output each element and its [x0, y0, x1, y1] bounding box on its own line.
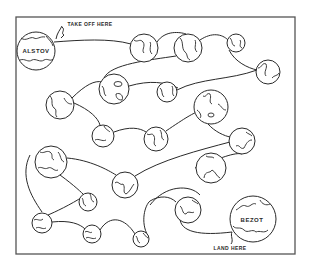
- planet[interactable]: [83, 225, 101, 243]
- path-segment[interactable]: [208, 124, 230, 137]
- path-segment[interactable]: [200, 35, 228, 40]
- path-segment[interactable]: [166, 112, 198, 131]
- planet-label-alstov: ALSTOV: [22, 48, 49, 54]
- planet[interactable]: [99, 74, 129, 104]
- path-segment[interactable]: [60, 175, 84, 195]
- planet[interactable]: [46, 91, 74, 119]
- path-segment[interactable]: [229, 50, 257, 70]
- planets: ALSTOV: [17, 32, 280, 247]
- path-segment[interactable]: [144, 201, 150, 236]
- planet[interactable]: [79, 193, 97, 211]
- planet[interactable]: [175, 197, 201, 223]
- path-segment[interactable]: [177, 70, 257, 90]
- path-segment[interactable]: [56, 26, 62, 39]
- planet[interactable]: [194, 90, 228, 124]
- planet[interactable]: [227, 34, 245, 52]
- planet[interactable]: [35, 146, 67, 178]
- path-segment[interactable]: [54, 40, 131, 44]
- path-segment[interactable]: [52, 221, 85, 229]
- planet[interactable]: [157, 82, 177, 102]
- start-arrow-icon: [61, 27, 64, 38]
- path-segment[interactable]: [114, 128, 146, 132]
- end-label: LAND HERE: [214, 245, 247, 251]
- planet-bezot[interactable]: BEZOT: [230, 196, 276, 242]
- planet[interactable]: [112, 172, 138, 198]
- planet[interactable]: [174, 34, 202, 62]
- planet[interactable]: [144, 127, 168, 151]
- planet[interactable]: [32, 213, 52, 233]
- path-segment[interactable]: [67, 158, 116, 175]
- planet-alstov[interactable]: ALSTOV: [17, 32, 55, 70]
- planet[interactable]: [256, 60, 280, 84]
- path-segment[interactable]: [100, 220, 135, 234]
- path-segment[interactable]: [48, 196, 84, 215]
- start-label: TAKE OFF HERE: [67, 21, 112, 27]
- planet[interactable]: [196, 153, 226, 183]
- planet[interactable]: [92, 125, 114, 147]
- end-arrow-icon: [231, 232, 232, 244]
- maze-drawing: ALSTOV: [0, 0, 311, 272]
- planet-label-bezot: BEZOT: [241, 217, 264, 223]
- path-segment[interactable]: [150, 197, 176, 202]
- path-segment[interactable]: [74, 103, 100, 125]
- path-segment[interactable]: [72, 82, 102, 98]
- planet[interactable]: [229, 128, 255, 154]
- planet[interactable]: [133, 231, 149, 247]
- planet[interactable]: [130, 34, 158, 62]
